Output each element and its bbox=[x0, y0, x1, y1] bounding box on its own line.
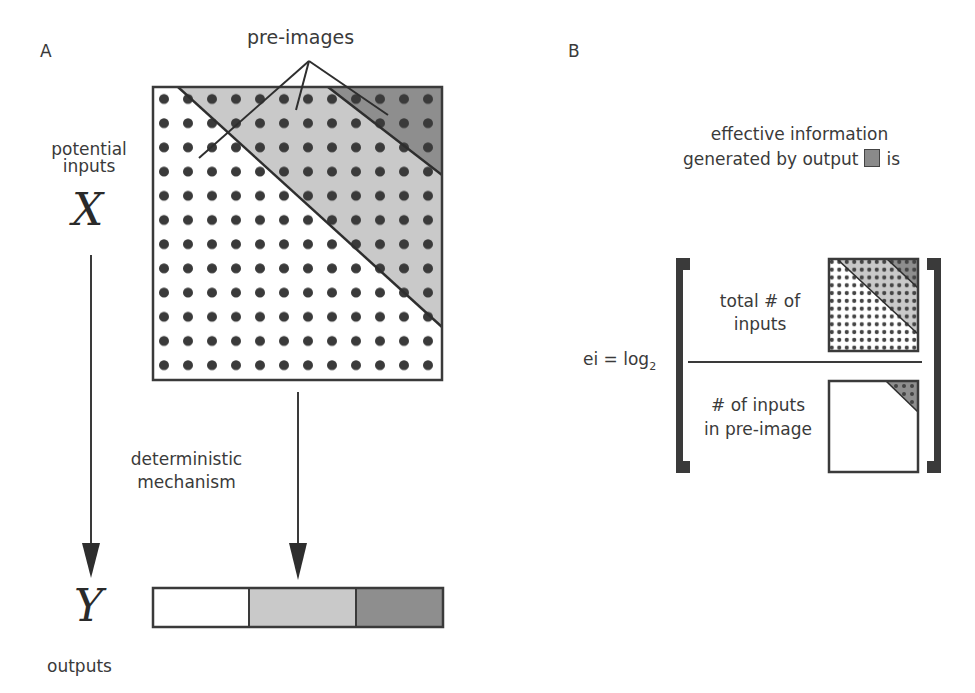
potential-inputs-line2: inputs bbox=[43, 156, 135, 176]
x-to-y-arrow bbox=[82, 255, 100, 578]
title-line1: effective information bbox=[650, 122, 933, 147]
input-symbol-x: X bbox=[72, 184, 103, 235]
total-inputs-mini-grid bbox=[829, 259, 918, 351]
ei-formula-lhs: ei = log2 bbox=[583, 349, 656, 377]
title-line2: generated by outputis bbox=[650, 147, 933, 172]
mechanism-line1: deterministic bbox=[124, 448, 249, 471]
effective-information-title: effective information generated by outpu… bbox=[650, 122, 933, 172]
title-line2-prefix: generated by output bbox=[683, 149, 859, 169]
panel-a-label: A bbox=[40, 41, 52, 61]
outputs-label: outputs bbox=[47, 656, 112, 676]
denominator-line2: in pre-image bbox=[692, 417, 824, 441]
output-dark-gray bbox=[356, 588, 443, 627]
preimage-mini-grid bbox=[829, 381, 918, 472]
deterministic-mechanism-label: deterministic mechanism bbox=[124, 448, 249, 494]
numerator-line2: inputs bbox=[700, 313, 820, 336]
input-space-grid bbox=[153, 87, 442, 380]
denominator-line1: # of inputs bbox=[692, 393, 824, 417]
left-bracket bbox=[676, 258, 690, 473]
dark-output-swatch-icon bbox=[864, 149, 880, 167]
potential-inputs-label: potential inputs bbox=[43, 139, 135, 176]
output-white bbox=[153, 588, 249, 627]
title-line2-suffix: is bbox=[886, 149, 900, 169]
numerator-label: total # of inputs bbox=[700, 290, 820, 336]
right-bracket bbox=[927, 258, 941, 473]
ei-equals-log: ei = log bbox=[583, 349, 649, 369]
numerator-line1: total # of bbox=[700, 290, 820, 313]
log-base-subscript: 2 bbox=[649, 360, 656, 373]
mechanism-line2: mechanism bbox=[124, 471, 249, 494]
output-symbol-y: Y bbox=[74, 580, 103, 631]
mechanism-arrow bbox=[289, 392, 307, 580]
output-light-gray bbox=[249, 588, 356, 627]
diagram-graphics bbox=[0, 0, 975, 693]
preimages-label: pre-images bbox=[247, 27, 354, 47]
output-states-bar bbox=[153, 588, 443, 627]
denominator-label: # of inputs in pre-image bbox=[692, 393, 824, 441]
panel-b-label: B bbox=[568, 41, 580, 61]
